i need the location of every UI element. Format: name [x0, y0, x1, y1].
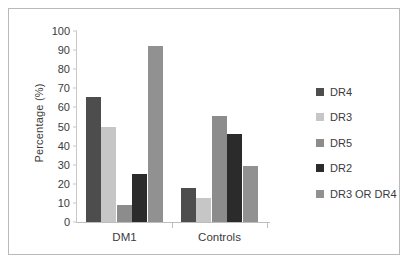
bar [86, 97, 101, 222]
legend-item[interactable]: DR4 [316, 79, 397, 105]
plot-area: 0102030405060708090100 [77, 31, 267, 222]
legend-item-label: DR5 [330, 137, 352, 149]
x-axis-group-separator [172, 222, 173, 228]
legend-swatch-icon [316, 139, 324, 147]
bar [196, 198, 211, 222]
legend-item-label: DR3 [330, 111, 352, 123]
chart-figure: Percentage (%) 0102030405060708090100 DM… [8, 8, 400, 255]
legend-swatch-icon [316, 113, 324, 121]
legend-item[interactable]: DR5 [316, 130, 397, 156]
bar [117, 205, 132, 222]
legend-item[interactable]: DR2 [316, 156, 397, 182]
legend-swatch-icon [316, 190, 324, 198]
bar [181, 188, 196, 222]
bar [148, 46, 163, 222]
x-axis-line [77, 222, 270, 223]
legend-item-label: DR4 [330, 86, 352, 98]
bar [212, 116, 227, 222]
bar-group [172, 31, 267, 222]
x-axis-category-label: DM1 [77, 231, 172, 243]
legend-item[interactable]: DR3 [316, 105, 397, 131]
legend-item[interactable]: DR3 OR DR4 [316, 181, 397, 207]
bar [101, 127, 116, 223]
chart-legend: DR4DR3DR5DR2DR3 OR DR4 [316, 79, 397, 207]
bar [227, 134, 242, 222]
y-axis-title: Percentage (%) [31, 43, 47, 203]
y-axis-title-label: Percentage (%) [33, 83, 45, 162]
x-axis-group-separator [267, 222, 268, 228]
bar [243, 166, 258, 222]
legend-item-label: DR2 [330, 162, 352, 174]
legend-item-label: DR3 OR DR4 [330, 188, 397, 200]
x-axis-category-label: Controls [172, 231, 267, 243]
bar-group [77, 31, 172, 222]
legend-swatch-icon [316, 164, 324, 172]
legend-swatch-icon [316, 88, 324, 96]
bar [132, 174, 147, 222]
